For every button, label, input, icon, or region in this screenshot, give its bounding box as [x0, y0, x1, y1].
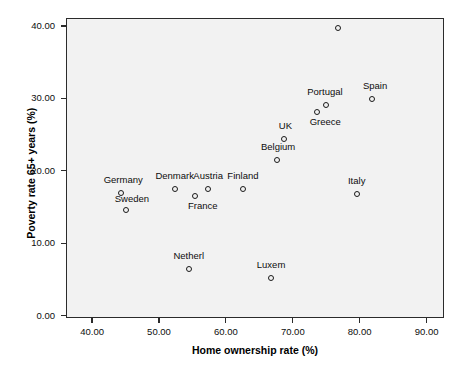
- x-tick-mark: [91, 318, 92, 323]
- x-tick-mark: [158, 318, 159, 323]
- y-tick-mark: [61, 170, 66, 171]
- x-axis-ticks: 40.0050.0060.0070.0080.0090.00: [0, 0, 458, 370]
- x-tick-label: 90.00: [415, 327, 439, 337]
- x-tick-mark: [426, 318, 427, 323]
- y-tick-mark: [61, 243, 66, 244]
- y-tick-mark: [61, 315, 66, 316]
- y-tick-mark: [61, 98, 66, 99]
- x-tick-label: 40.00: [80, 327, 104, 337]
- x-tick-label: 70.00: [281, 327, 305, 337]
- x-tick-label: 50.00: [147, 327, 171, 337]
- x-axis-label: Home ownership rate (%): [66, 345, 444, 356]
- scatter-plot-figure: Poverty rate 65+ years (%) 0.0010.0020.0…: [0, 0, 458, 370]
- y-tick-mark: [61, 25, 66, 26]
- x-tick-mark: [225, 318, 226, 323]
- x-tick-mark: [292, 318, 293, 323]
- x-tick-mark: [359, 318, 360, 323]
- x-tick-label: 60.00: [214, 327, 238, 337]
- x-tick-label: 80.00: [348, 327, 372, 337]
